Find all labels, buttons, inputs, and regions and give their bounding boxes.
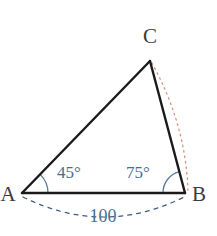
triangle-figure: A B C 45° 75° 100: [0, 0, 217, 236]
side-length-label-ab: 100: [90, 206, 117, 226]
side-measure-arc: [152, 63, 188, 191]
geometry-canvas: A B C 45° 75° 100: [0, 0, 217, 236]
side-bc: [150, 61, 185, 193]
angle-label-a: 45°: [57, 163, 81, 182]
angle-arc-a: [40, 175, 48, 193]
vertex-label-c: C: [143, 24, 157, 48]
vertex-label-b: B: [192, 182, 206, 206]
vertex-label-a: A: [0, 182, 16, 206]
angle-label-b: 75°: [126, 163, 150, 182]
angle-arc-b: [163, 172, 179, 193]
